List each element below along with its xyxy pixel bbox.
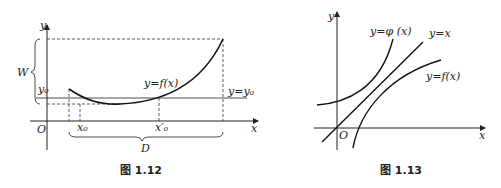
curve-f-label: y=f(x)	[425, 70, 460, 83]
range-label: W	[17, 66, 30, 79]
figure-caption: 图 1.13	[380, 164, 422, 177]
domain-label: D	[140, 142, 150, 155]
origin-label: O	[37, 123, 46, 136]
identity-label: y=x	[428, 27, 451, 40]
line-label: y=y₀	[227, 85, 255, 98]
y-axis-label: y	[39, 19, 47, 32]
curve-label: y=f(x)	[143, 77, 178, 90]
figure-caption: 图 1.12	[120, 164, 162, 177]
domain-brace	[69, 132, 223, 141]
curve-f	[69, 39, 223, 104]
x-axis-label: x	[251, 122, 258, 135]
y0-label: y₀	[37, 83, 49, 96]
x0-label: x₀	[77, 121, 88, 134]
x0-prime-label: x′₀	[155, 121, 169, 134]
figures-canvas: y x O W y₀ y=f(x) y=y₀ x₀ x′₀ D 图 1.12 y…	[0, 0, 501, 188]
figure-1-13: y x O y=φ (x) y=x y=f(x) 图 1.13	[314, 10, 486, 177]
guide-lines	[47, 39, 223, 121]
curve-phi-label: y=φ (x)	[369, 25, 411, 38]
figure-1-12: y x O W y₀ y=f(x) y=y₀ x₀ x′₀ D 图 1.12	[17, 19, 258, 177]
y-axis-label: y	[327, 10, 335, 23]
x-axis-label: x	[479, 129, 486, 142]
origin-label: O	[339, 129, 348, 142]
